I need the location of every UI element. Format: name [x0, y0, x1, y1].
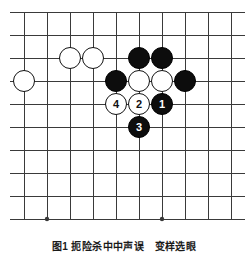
go-stone-white[interactable]: [151, 70, 173, 92]
go-stone-move-1[interactable]: 1: [151, 93, 173, 115]
go-board-grid: [0, 0, 248, 234]
go-stone-black[interactable]: [128, 47, 150, 69]
go-stone-move-2[interactable]: 2: [128, 93, 150, 115]
go-stone-black[interactable]: [105, 70, 127, 92]
figure-caption: 图1 扼险杀中中声误 变样选眼: [0, 238, 248, 253]
go-stone-move-3[interactable]: 3: [128, 116, 150, 138]
go-stone-white[interactable]: [59, 47, 81, 69]
go-stone-move-4[interactable]: 4: [105, 93, 127, 115]
go-stone-black[interactable]: [151, 47, 173, 69]
go-stone-white[interactable]: [13, 70, 35, 92]
go-stone-white[interactable]: [82, 47, 104, 69]
star-point: [160, 217, 164, 221]
go-stone-move-number: 2: [136, 98, 142, 109]
go-stone-black[interactable]: [174, 70, 196, 92]
go-board[interactable]: [0, 0, 248, 234]
go-stone-move-number: 4: [113, 98, 119, 109]
star-point: [45, 217, 49, 221]
go-stone-white[interactable]: [128, 70, 150, 92]
go-stone-move-number: 1: [159, 98, 165, 109]
go-stone-move-number: 3: [136, 121, 142, 132]
